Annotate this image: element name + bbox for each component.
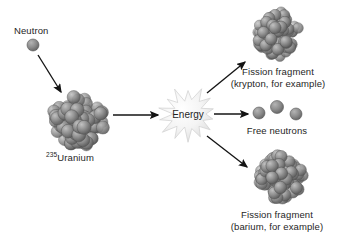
fission-diagram: Neutron 235Uranium Energy Free neutrons …: [0, 0, 340, 242]
fragment-top-line1: Fission fragment: [231, 66, 326, 78]
fission-fragment-barium-label: Fission fragment (barium, for example): [231, 209, 323, 232]
fission-fragment-krypton-label: Fission fragment (krypton, for example): [231, 66, 326, 89]
free-neutrons-label: Free neutrons: [247, 125, 307, 137]
uranium-mass-number: 235: [46, 151, 57, 158]
energy-to-barium-arrow: [207, 136, 247, 167]
fragment-top-line2: (krypton, for example): [231, 78, 326, 90]
free-neutron-spheres: [253, 101, 302, 121]
energy-label: Energy: [172, 109, 204, 120]
neutron-label: Neutron: [14, 25, 49, 37]
fragment-bottom-line1: Fission fragment: [231, 209, 323, 221]
uranium-name: Uranium: [57, 152, 94, 163]
uranium-label: 235Uranium: [46, 152, 94, 164]
diagram-canvas: [0, 0, 340, 242]
neutron-to-uranium-arrow: [38, 55, 61, 92]
incoming-neutron-sphere: [27, 39, 39, 51]
fragment-bottom-line2: (barium, for example): [231, 221, 323, 233]
